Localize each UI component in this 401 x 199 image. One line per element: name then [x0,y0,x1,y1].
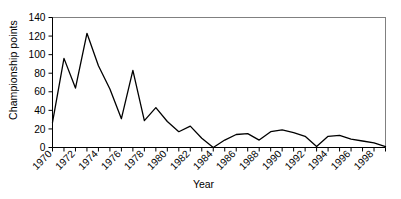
y-axis-tick-label: 100 [29,49,46,60]
x-axis-tick-label: 1986 [214,148,238,172]
x-axis-tick-label-group: 1994 [306,148,330,172]
y-axis-tick-label: 120 [29,31,46,42]
x-axis-tick-label: 1984 [191,148,215,172]
x-axis-tick-label-group: 1980 [145,148,169,172]
x-axis-tick-label-group: 1998 [352,148,376,172]
chart-container: Championship points 02040608010012014019… [0,0,401,199]
x-axis-tick-label: 1994 [306,148,330,172]
x-axis-tick-label: 1992 [283,148,307,172]
x-axis-tick-label-group: 1976 [99,148,123,172]
x-axis-tick-label: 1990 [260,148,284,172]
x-axis-tick-label: 1982 [168,148,192,172]
x-axis-tick-label-group: 1982 [168,148,192,172]
x-axis-tick-label: 1988 [237,148,261,172]
y-axis-tick-label: 60 [34,86,46,97]
x-axis-tick-label-group: 1974 [76,148,100,172]
x-axis-title: Year [193,178,214,190]
x-axis-tick-label-group: 1984 [191,148,215,172]
x-axis-tick-label-group: 1990 [260,148,284,172]
x-axis-tick-label-group: 1996 [329,148,353,172]
line-chart-plot: 0204060801001201401970197219741976197819… [0,0,401,199]
plot-frame [53,18,386,148]
x-axis-tick-label-group: 1978 [122,148,146,172]
x-axis-tick-label-group: 1992 [283,148,307,172]
x-axis-tick-label: 1998 [352,148,376,172]
x-axis-tick-label: 1970 [30,148,54,172]
y-axis-tick-label: 20 [34,124,46,135]
x-axis-tick-label: 1996 [329,148,353,172]
x-axis-tick-label: 1976 [99,148,123,172]
x-axis-tick-label-group: 1986 [214,148,238,172]
x-axis-tick-label: 1974 [76,148,100,172]
x-axis-tick-label: 1978 [122,148,146,172]
x-axis-tick-label-group: 1972 [53,148,77,172]
x-axis-title-wrapper: Year [0,178,401,190]
x-axis-tick-label: 1972 [53,148,77,172]
x-axis-tick-label-group: 1988 [237,148,261,172]
y-axis-tick-label: 80 [34,68,46,79]
x-axis-tick-label-group: 1970 [30,148,54,172]
data-series-line [53,33,386,147]
y-axis-tick-label: 40 [34,105,46,116]
x-axis-tick-label: 1980 [145,148,169,172]
y-axis-tick-label: 140 [29,12,46,23]
